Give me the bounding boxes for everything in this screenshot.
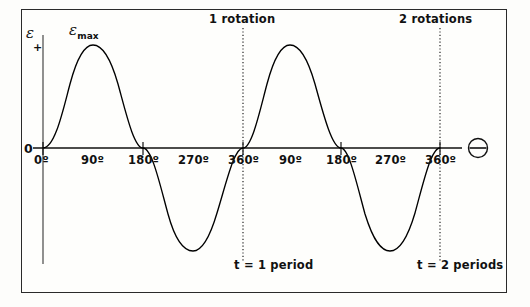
y-axis-plus-sign: + — [33, 41, 42, 54]
label-t-2-periods: t = 2 periods — [417, 258, 503, 272]
y-axis-zero-text: 0 — [24, 141, 33, 156]
x-tick-label-90a: 90º — [81, 153, 104, 167]
y-axis-epsilon-glyph: ε — [26, 24, 34, 42]
theta-symbol — [469, 139, 488, 158]
label-t-2-periods-text: t = 2 periods — [417, 258, 503, 272]
epsilon-max-symbol: ε — [69, 21, 77, 39]
x-tick-label-270a-text: 270º — [178, 153, 209, 167]
label-1-rotation-text: 1 rotation — [209, 12, 275, 26]
label-t-1-period: t = 1 period — [234, 258, 313, 272]
epsilon-max-annotation: εmax — [69, 20, 99, 41]
x-tick-label-270b-text: 270º — [375, 153, 406, 167]
x-tick-label-360a-text: 360º — [228, 153, 259, 167]
x-tick-label-180b: 180º — [326, 153, 357, 167]
x-tick-label-180a: 180º — [128, 153, 159, 167]
x-tick-label-270a: 270º — [178, 153, 209, 167]
x-tick-label-360b: 360º — [425, 153, 456, 167]
y-axis-plus-glyph: + — [33, 41, 42, 54]
label-2-rotations: 2 rotations — [399, 12, 472, 26]
label-1-rotation: 1 rotation — [209, 12, 275, 26]
x-tick-label-0-text: 0º — [34, 153, 49, 167]
x-tick-label-180a-text: 180º — [128, 153, 159, 167]
x-tick-label-180b-text: 180º — [326, 153, 357, 167]
label-2-rotations-text: 2 rotations — [399, 12, 472, 26]
x-tick-label-360b-text: 360º — [425, 153, 456, 167]
epsilon-max-subscript: max — [77, 31, 98, 41]
emf-sine-wave-figure: ε + 0 εmax 1 rotation 2 rotations t = 1 … — [0, 0, 530, 307]
x-tick-label-90b: 90º — [279, 153, 302, 167]
x-tick-label-270b: 270º — [375, 153, 406, 167]
x-tick-label-90b-text: 90º — [279, 153, 302, 167]
x-tick-label-360a: 360º — [228, 153, 259, 167]
label-t-1-period-text: t = 1 period — [234, 258, 313, 272]
y-axis-symbol-epsilon: ε — [26, 24, 34, 42]
x-tick-label-0: 0º — [34, 153, 49, 167]
x-tick-label-90a-text: 90º — [81, 153, 104, 167]
y-axis-zero-label: 0 — [24, 141, 33, 156]
